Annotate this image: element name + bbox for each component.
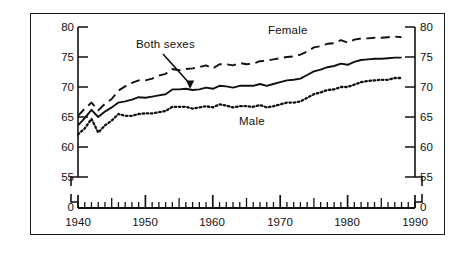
left-axis-ticks — [78, 27, 88, 177]
x-tick-label: 1950 — [123, 216, 167, 228]
x-tick-label: 1980 — [325, 216, 369, 228]
x-tick-label: 1960 — [190, 216, 234, 228]
y-tick-label-right: 65 — [420, 111, 450, 123]
y-tick-label-right: 55 — [420, 171, 450, 183]
annotation-female: Female — [268, 24, 308, 36]
figure-root: Years — [0, 0, 475, 265]
y-tick-label-left: 65 — [50, 111, 74, 123]
series-line-female — [78, 37, 402, 116]
y-tick-label-left: 75 — [50, 51, 74, 63]
y-tick-label-right: 60 — [420, 141, 450, 153]
y-tick-label-left: 70 — [50, 81, 74, 93]
y-tick-label-right: 70 — [420, 81, 450, 93]
annotation-both-sexes: Both sexes — [136, 38, 195, 50]
both-sexes-arrow — [163, 54, 194, 89]
y-tick-label-right: 75 — [420, 51, 450, 63]
x-tick-label: 1990 — [393, 216, 437, 228]
annotation-male: Male — [239, 115, 265, 127]
y-tick-label-left: 60 — [50, 141, 74, 153]
x-tick-label: 1940 — [56, 216, 100, 228]
x-axis-ticks — [78, 195, 415, 208]
y-tick-label-left-zero: 0 — [50, 201, 74, 213]
y-tick-label-right: 80 — [420, 21, 450, 33]
y-tick-label-right-zero: 0 — [420, 201, 450, 213]
y-tick-label-left: 80 — [50, 21, 74, 33]
y-tick-label-left: 55 — [50, 171, 74, 183]
x-tick-label: 1970 — [258, 216, 302, 228]
right-axis-ticks — [405, 27, 415, 177]
